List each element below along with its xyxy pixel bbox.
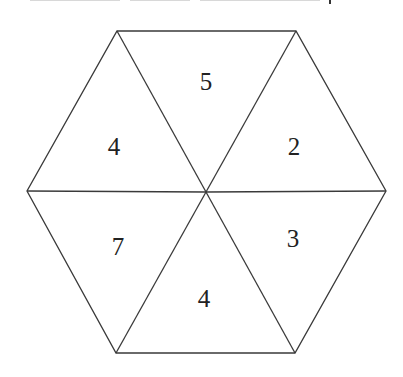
- hexagon-diagram: [0, 0, 403, 377]
- triangle-label-top: 5: [200, 69, 213, 94]
- triangle-label-bottom: 4: [198, 286, 211, 311]
- triangle-label-lower-left: 7: [112, 234, 125, 259]
- triangle-label-upper-right: 2: [288, 134, 301, 159]
- triangle-label-lower-right: 3: [287, 226, 300, 251]
- triangle-label-upper-left: 4: [108, 134, 121, 159]
